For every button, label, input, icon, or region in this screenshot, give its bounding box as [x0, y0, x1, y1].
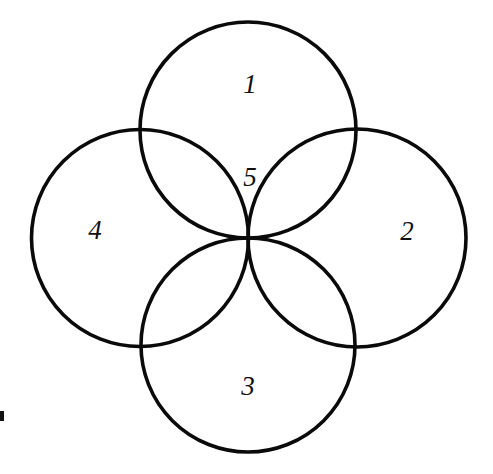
- region-label-3: 3: [240, 371, 255, 401]
- region-label-4: 4: [88, 215, 102, 245]
- region-label-5: 5: [243, 162, 257, 192]
- region-label-1: 1: [243, 69, 257, 99]
- scan-artifact: [0, 411, 4, 421]
- four-circles-svg: 1 2 3 4 5: [0, 0, 493, 474]
- region-label-2: 2: [400, 216, 414, 246]
- figure-canvas: 1 2 3 4 5: [0, 0, 493, 474]
